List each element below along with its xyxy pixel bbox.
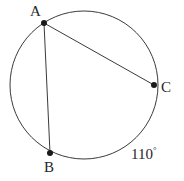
point-b-label: B (44, 160, 54, 175)
point-c-dot (151, 82, 157, 88)
point-b-dot (47, 150, 53, 156)
point-c-label: C (161, 80, 171, 95)
point-a-label: A (30, 4, 41, 19)
arc-measure-label: 110° (131, 146, 157, 162)
circle-outline (10, 11, 158, 159)
arc-measure-value: 110 (131, 146, 153, 162)
geometry-figure: A B C 110° (0, 0, 184, 181)
point-a-dot (41, 20, 47, 26)
degree-symbol-icon: ° (153, 145, 157, 155)
